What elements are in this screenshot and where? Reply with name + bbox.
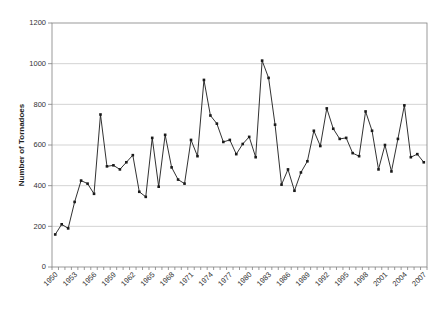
data-point-1984 (274, 123, 277, 126)
data-point-1999 (371, 129, 374, 132)
data-point-1994 (338, 138, 341, 141)
data-point-1988 (300, 171, 303, 174)
data-point-1978 (235, 153, 238, 156)
data-point-1954 (80, 179, 83, 182)
data-point-1971 (190, 139, 193, 142)
data-point-2002 (390, 170, 393, 173)
data-point-1997 (358, 155, 361, 158)
x-tick-label: 1965 (138, 270, 156, 288)
y-axis-title: Number of Tornadoes (17, 103, 26, 186)
data-point-1973 (203, 79, 206, 82)
data-point-1976 (222, 141, 225, 144)
data-point-2004 (403, 104, 406, 107)
data-point-1983 (267, 77, 270, 80)
data-point-2006 (416, 153, 419, 156)
x-tick-label: 2004 (391, 270, 409, 288)
x-tick-label: 1953 (61, 270, 79, 288)
tornado-line-chart: 0200400600800100012001950195319561959196… (0, 0, 448, 309)
data-point-1990 (313, 129, 316, 132)
x-tick-label: 1998 (352, 270, 370, 288)
tornado-series (54, 59, 425, 235)
x-tick-label: 1950 (41, 270, 59, 288)
x-tick-label: 1959 (100, 270, 118, 288)
data-point-1956 (93, 193, 96, 196)
data-point-1987 (293, 189, 296, 192)
x-tick-label: 1974 (197, 270, 215, 288)
data-point-1991 (319, 145, 322, 148)
data-point-1974 (209, 114, 212, 117)
data-point-1963 (138, 190, 141, 193)
data-point-1985 (280, 183, 283, 186)
data-point-1977 (229, 139, 232, 142)
x-tick-label: 1962 (119, 270, 137, 288)
x-tick-label: 1956 (80, 270, 98, 288)
data-point-1996 (351, 152, 354, 155)
y-tick-label: 0 (42, 262, 46, 271)
data-point-1950 (54, 233, 57, 236)
data-point-2005 (410, 156, 413, 159)
data-point-1961 (125, 161, 128, 164)
x-tick-label: 1968 (158, 270, 176, 288)
x-tick-label: 2007 (410, 270, 428, 288)
x-tick-label: 1983 (255, 270, 273, 288)
data-point-1968 (170, 166, 173, 169)
data-point-1957 (99, 113, 102, 116)
y-tick-label: 600 (33, 140, 46, 149)
x-tick-label: 1980 (235, 270, 253, 288)
data-point-1964 (144, 196, 147, 199)
data-point-1989 (306, 160, 309, 163)
gridlines (52, 64, 427, 227)
x-tick-label: 2001 (371, 270, 389, 288)
tornado-chart-figure: 0200400600800100012001950195319561959196… (0, 0, 448, 309)
x-tick-label: 1977 (216, 270, 234, 288)
data-point-1981 (254, 156, 257, 159)
data-point-1980 (248, 136, 251, 139)
data-point-2007 (422, 161, 425, 164)
data-point-1972 (196, 155, 199, 158)
data-point-2001 (384, 144, 387, 147)
x-tick-label: 1989 (294, 270, 312, 288)
x-tick-label: 1992 (313, 270, 331, 288)
data-point-1998 (364, 110, 367, 113)
data-point-1992 (325, 107, 328, 110)
y-tick-label: 200 (33, 222, 46, 231)
data-point-1952 (67, 227, 70, 230)
x-tick-label: 1995 (332, 270, 350, 288)
axis-labels: 0200400600800100012001950195319561959196… (29, 18, 428, 288)
y-tick-label: 800 (33, 100, 46, 109)
data-point-1958 (106, 165, 109, 168)
y-tick-label: 1000 (29, 59, 46, 68)
data-point-1969 (177, 178, 180, 181)
data-point-1965 (151, 137, 154, 140)
data-point-1967 (164, 134, 167, 137)
data-point-1953 (73, 201, 76, 204)
data-point-1959 (112, 164, 115, 167)
data-point-1982 (261, 59, 264, 62)
data-point-1986 (287, 168, 290, 171)
data-point-1960 (119, 168, 122, 171)
data-point-1962 (132, 154, 135, 157)
data-point-1970 (183, 182, 186, 185)
data-point-1975 (216, 122, 219, 125)
data-point-2003 (397, 138, 400, 141)
data-point-2000 (377, 168, 380, 171)
y-tick-label: 1200 (29, 18, 46, 27)
x-tick-label: 1971 (177, 270, 195, 288)
data-point-1993 (332, 127, 335, 130)
data-point-1951 (60, 223, 63, 226)
data-point-1995 (345, 137, 348, 140)
data-point-1966 (157, 185, 160, 188)
series-line (55, 61, 424, 235)
y-tick-label: 400 (33, 181, 46, 190)
x-tick-label: 1986 (274, 270, 292, 288)
data-point-1955 (86, 182, 89, 185)
data-point-1979 (241, 143, 244, 146)
